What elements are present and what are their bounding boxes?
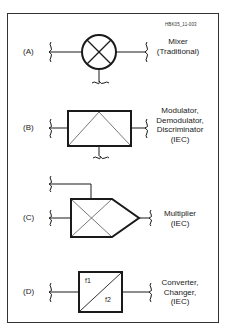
tag-c: (C) [23, 213, 34, 222]
label-converter: Converter, Changer, (IEC) [156, 278, 204, 307]
brace-icon [92, 81, 109, 84]
figure-id: HBK05_11-003 [165, 22, 197, 27]
converter-symbol [49, 272, 152, 312]
brace-icon [145, 119, 148, 138]
brace-icon [149, 210, 152, 226]
tag-a: (A) [23, 47, 34, 56]
multiplier-symbol [41, 176, 152, 237]
brace-icon [93, 156, 109, 159]
converter-output-frequency: f2 [105, 296, 111, 303]
mixer-traditional-symbol [49, 35, 148, 84]
modulator-symbol [49, 111, 148, 159]
label-modulator: Modulator, Demodulator, Discriminator (I… [152, 106, 208, 144]
tag-d: (D) [23, 287, 34, 296]
label-mixer: Mixer (Traditional) [152, 37, 204, 56]
tag-b: (B) [23, 123, 34, 132]
brace-icon [145, 42, 148, 62]
brace-icon [149, 283, 152, 302]
converter-input-frequency: f1 [85, 277, 91, 284]
label-multiplier: Multiplier (IEC) [158, 209, 202, 228]
